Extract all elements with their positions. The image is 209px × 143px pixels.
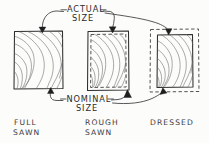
full-sawn-grain <box>14 31 63 89</box>
nominal-arrowhead-dressed <box>160 88 167 95</box>
rough-sawn-grain <box>91 34 126 87</box>
diagram-canvas: ACTUAL SIZE NOMINAL SIZE FULL SAWN RO <box>0 0 209 143</box>
label-rough-sawn-line1: ROUGH <box>85 118 119 127</box>
nominal-size-callout: NOMINAL SIZE <box>48 88 168 113</box>
specimen-dressed <box>150 29 199 92</box>
rough-sawn-solid-outline <box>88 31 130 91</box>
dressed-solid-actual <box>157 35 193 88</box>
label-full-sawn-line1: FULL <box>14 118 37 127</box>
label-rough-sawn-line2: SAWN <box>85 128 112 137</box>
label-dressed-line1: DRESSED <box>150 118 194 127</box>
actual-arrowhead-dressed <box>165 29 172 35</box>
rough-sawn-dashed-nominal <box>91 34 127 88</box>
nominal-arrowhead-rough-sawn <box>124 90 132 98</box>
specimen-labels: FULL SAWN ROUGH SAWN DRESSED <box>13 118 194 137</box>
specimen-full-sawn <box>14 31 63 89</box>
actual-leader-to-full-sawn <box>42 11 63 28</box>
nominal-leader-to-dressed <box>113 91 164 104</box>
label-full-sawn-line2: SAWN <box>13 128 40 137</box>
specimen-rough-sawn <box>88 31 130 91</box>
dressed-grain <box>157 35 193 87</box>
actual-size-label-line2: SIZE <box>72 13 94 23</box>
actual-size-callout: ACTUAL SIZE <box>39 4 172 35</box>
lumber-sizing-diagram: ACTUAL SIZE NOMINAL SIZE FULL SAWN RO <box>0 0 209 143</box>
actual-arrowhead-rough-sawn <box>109 27 116 33</box>
nominal-size-label-line2: SIZE <box>76 103 98 113</box>
